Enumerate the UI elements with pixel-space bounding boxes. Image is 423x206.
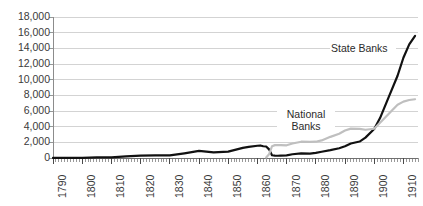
x-tick-label: 1860: [261, 175, 272, 198]
x-tick-label: 1810: [115, 175, 126, 198]
national-banks-label-line: Banks: [278, 120, 334, 132]
x-tick-label: 1900: [378, 175, 389, 198]
state-banks-label: State Banks: [330, 42, 396, 54]
national-banks-label: NationalBanks: [277, 108, 335, 132]
x-tick-label: 1800: [86, 175, 97, 198]
x-tick-label: 1890: [349, 175, 360, 198]
x-tick-label: 1830: [174, 175, 185, 198]
bank-count-line-chart: 02,0004,0006,0008,00010,00012,00014,0001…: [0, 0, 423, 206]
x-tick-label: 1850: [232, 175, 243, 198]
state-banks-label-line: State Banks: [331, 42, 395, 54]
national-banks-label-line: National: [278, 108, 334, 120]
x-tick-label: 1840: [203, 175, 214, 198]
x-tick-label: 1790: [57, 175, 68, 198]
x-tick-label: 1820: [145, 175, 156, 198]
x-tick-label: 1880: [320, 175, 331, 198]
x-tick-label: 1870: [291, 175, 302, 198]
x-axis-tick-labels: 1790180018101820183018401850186018701880…: [0, 0, 423, 206]
x-tick-label: 1910: [407, 175, 418, 198]
